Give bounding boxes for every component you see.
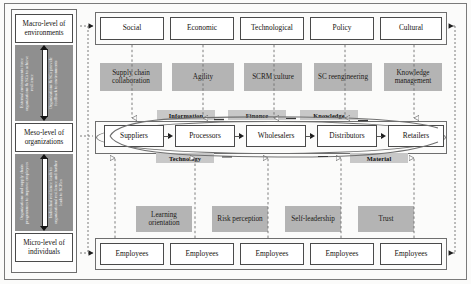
environment-box-social[interactable]: Social (100, 17, 164, 40)
level-label-micro: Micro-level of individuals (16, 239, 72, 256)
environment-box-economic[interactable]: Economic (170, 17, 234, 40)
chain-node-wholesalers[interactable]: Wholesalers (246, 125, 306, 147)
individual-capability-box-risk-perception[interactable]: Risk perception (212, 206, 268, 232)
employee-label: Employees (326, 250, 359, 258)
level-arrowhead-down-2 (40, 226, 48, 231)
chain-node-retailers[interactable]: Retailers (388, 125, 444, 147)
chain-connector-3 (306, 136, 311, 137)
environment-label: Policy (333, 24, 352, 32)
employee-box-1[interactable]: Employees (100, 243, 164, 265)
individual-capability-box-trust[interactable]: Trust (358, 206, 414, 232)
chain-node-label: Wholesalers (258, 132, 295, 140)
level-arrowhead-up-2 (40, 154, 48, 159)
environment-box-technological[interactable]: Technological (240, 17, 304, 40)
capability-label: SC reengineering (318, 73, 368, 81)
chain-node-label: Processors (189, 132, 221, 140)
level-label-macro: Macro-level of environments (16, 20, 72, 37)
environment-label: Economic (187, 24, 217, 32)
flow-label-text: Information (169, 112, 203, 119)
individual-capability-label: Risk perception (217, 215, 262, 223)
chain-node-distributors[interactable]: Distributors (317, 125, 377, 147)
capability-box-sc-reengineering[interactable]: SC reengineering (314, 63, 372, 91)
capability-label: Knowledge management (384, 69, 442, 85)
flow-label-information: Information (157, 110, 215, 120)
environment-label: Technological (251, 24, 293, 32)
employee-label: Employees (116, 250, 149, 258)
individual-capability-box-self-leadership[interactable]: Self-leadership (285, 206, 341, 232)
level-arrowhead-down-1 (40, 116, 48, 121)
level-arrow-macro-meso (42, 49, 48, 117)
chain-node-label: Suppliers (120, 132, 148, 140)
level-box-meso: Meso-level of organizations (15, 123, 73, 152)
employee-label: Employees (395, 250, 428, 258)
level-link-text-right-1: Organizations & SCs provide feedback to … (48, 51, 70, 115)
capability-box-agility[interactable]: Agility (172, 63, 234, 91)
level-label-meso: Meso-level of organizations (16, 129, 72, 146)
employee-box-4[interactable]: Employees (310, 243, 374, 265)
employee-label: Employees (256, 250, 289, 258)
flow-label-text: Technology (169, 155, 201, 162)
flow-label-material: Material (350, 153, 408, 163)
employee-box-3[interactable]: Employees (240, 243, 304, 265)
flow-label-technology: Technology (156, 153, 214, 163)
environment-label: Cultural (399, 24, 423, 32)
individual-capability-label: Trust (379, 215, 394, 223)
diagram-canvas: Macro-level of environments External env… (0, 0, 471, 284)
chain-connector-2 (235, 136, 240, 137)
level-box-micro: Micro-level of individuals (15, 233, 73, 262)
flow-label-text: Finance (246, 112, 268, 119)
chain-node-label: Distributors (329, 132, 364, 140)
chain-connector-1 (164, 136, 169, 137)
level-link-text-left-1: External environments force organization… (19, 51, 41, 115)
chain-connector-4 (377, 136, 382, 137)
individual-capability-box-learning-orientation[interactable]: Learning orientation (136, 206, 192, 232)
environment-box-policy[interactable]: Policy (310, 17, 374, 40)
individual-capability-label: Self-leadership (291, 215, 335, 223)
flow-label-text: Knowledge (313, 112, 344, 119)
level-box-macro: Macro-level of environments (15, 14, 73, 43)
employee-label: Employees (186, 250, 219, 258)
capability-box-supply-chain-collaboration[interactable]: Supply chain collaboration (100, 63, 162, 91)
individual-capability-label: Learning orientation (136, 211, 192, 227)
flow-label-knowledge: Knowledge (300, 110, 358, 120)
environment-box-cultural[interactable]: Cultural (380, 17, 442, 40)
environment-label: Social (123, 24, 141, 32)
chain-node-processors[interactable]: Processors (175, 125, 235, 147)
chain-node-label: Retailers (403, 132, 429, 140)
capability-label: Agility (193, 73, 213, 81)
level-arrow-meso-micro (42, 158, 48, 227)
employee-box-5[interactable]: Employees (380, 243, 442, 265)
flow-label-finance: Finance (228, 110, 286, 120)
chain-node-suppliers[interactable]: Suppliers (104, 125, 164, 147)
level-link-text-left-2: Organizations and supply chain programme… (19, 160, 41, 225)
level-link-text-right-2: Individual resilience leads to organizat… (48, 160, 70, 225)
employee-box-2[interactable]: Employees (170, 243, 234, 265)
capability-box-scrm-culture[interactable]: SCRM culture (244, 63, 302, 91)
flow-label-text: Material (367, 155, 392, 162)
capability-label: SCRM culture (252, 73, 294, 81)
capability-label: Supply chain collaboration (100, 69, 162, 85)
level-arrowhead-up-1 (40, 45, 48, 50)
capability-box-knowledge-management[interactable]: Knowledge management (384, 63, 442, 91)
